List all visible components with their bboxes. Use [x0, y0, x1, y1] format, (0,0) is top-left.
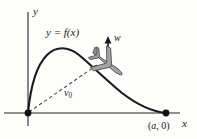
projectile-trajectory-figure: y x y = f(x) w v0 (a, 0): [0, 0, 197, 139]
weight-vector-arrowhead: [105, 36, 112, 43]
velocity-vector-label: v0: [64, 88, 72, 101]
velocity-vector-line: [29, 65, 97, 112]
diagram-canvas: [0, 0, 197, 139]
x-axis-label: x: [182, 118, 187, 129]
velocity-vector-subscript: 0: [68, 92, 72, 100]
landing-point-label: (a, 0): [148, 121, 170, 131]
curve-equation-label: y = f(x): [46, 27, 79, 38]
origin-point-marker: [25, 110, 32, 117]
landing-point-remainder: , 0): [156, 120, 169, 131]
y-axis-label: y: [33, 6, 38, 17]
weight-vector-label: w: [114, 33, 121, 43]
landing-point-marker: [163, 110, 170, 117]
